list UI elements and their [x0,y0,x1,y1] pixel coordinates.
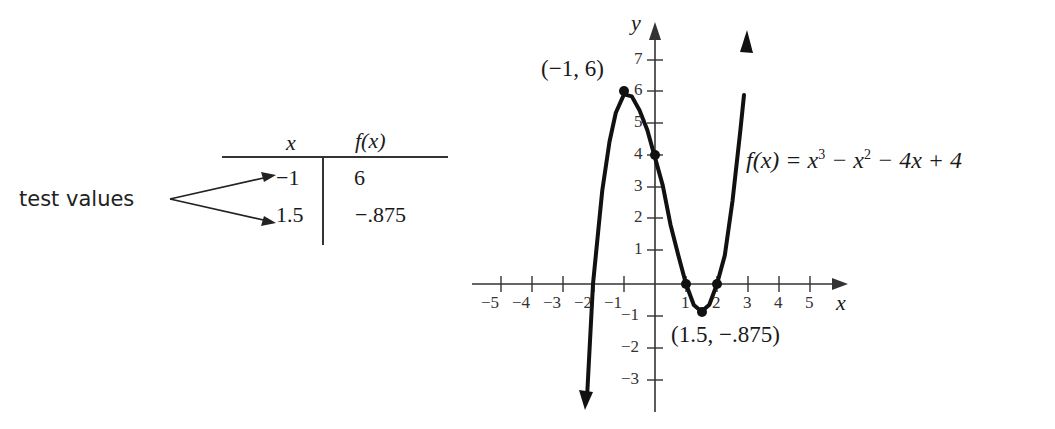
x-tick-label: 1 [681,293,690,313]
function-label-part: − 4x + 4 [871,147,962,173]
y-tick-label: 5 [634,112,643,132]
y-tick-label: 6 [634,80,643,100]
x-tick-label: −4 [512,293,530,313]
y-axis-label: y [631,10,641,36]
curve-arrow-up-icon [740,30,753,53]
x-tick-label: 2 [712,293,721,313]
y-tick-label: −2 [621,337,639,357]
x-axis [472,276,848,292]
x-tick-label: 5 [805,293,814,313]
x-axis-label: x [836,290,846,316]
function-graph [0,0,1055,429]
y-tick-label: 2 [634,207,643,227]
y-tick-label: −3 [621,369,639,389]
y-tick-label: −1 [621,305,639,325]
function-label: f(x) = x3 − x2 − 4x + 4 [746,147,962,174]
function-label-exponent: 2 [864,147,871,162]
min-point-label: (1.5, −.875) [671,322,780,348]
x-tick-label: 4 [774,293,783,313]
y-tick-label: 3 [634,176,643,196]
y-tick-label: 4 [634,144,643,164]
x-tick-label: 3 [743,293,752,313]
y-axis [647,22,663,412]
y-tick-label: 7 [634,49,643,69]
function-label-part: − x [825,147,864,173]
max-point-label: (−1, 6) [541,56,604,82]
x-tick-label: −1 [604,293,622,313]
x-tick-label: −5 [481,293,499,313]
x-tick-label: −2 [574,293,592,313]
x-tick-label: −3 [543,293,561,313]
function-curve [587,94,744,397]
curve-arrow-down-icon [579,390,593,410]
function-label-part: f(x) = x [746,147,818,173]
y-tick-label: 1 [634,239,643,259]
